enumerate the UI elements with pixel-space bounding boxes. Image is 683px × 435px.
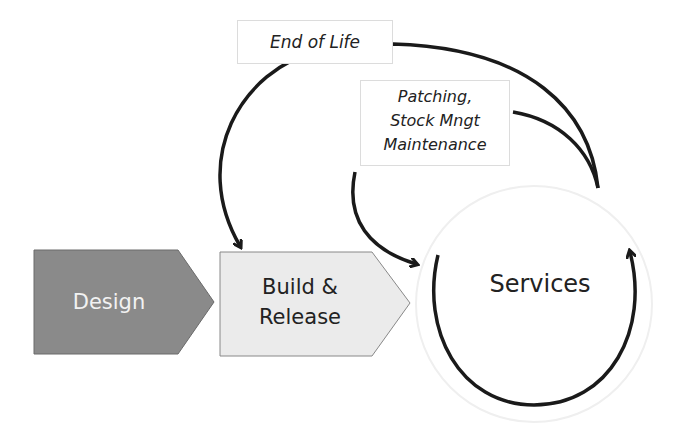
services-label: Services [450,270,630,298]
patching-line2: Stock Mngt [361,109,509,133]
diagram-canvas [0,0,683,435]
patching-label: Patching, Stock Mngt Maintenance [360,80,510,166]
build-line2: Release [220,302,380,332]
patching-line3: Maintenance [361,133,509,157]
patching-arrow-top [513,112,598,188]
end-of-life-label: End of Life [237,20,393,64]
build-release-label: Build & Release [220,250,380,354]
build-line1: Build & [220,272,380,302]
design-label: Design [34,250,184,354]
services-circle-outline [416,186,652,422]
patching-line1: Patching, [361,85,509,109]
end-of-life-text: End of Life [270,32,360,52]
